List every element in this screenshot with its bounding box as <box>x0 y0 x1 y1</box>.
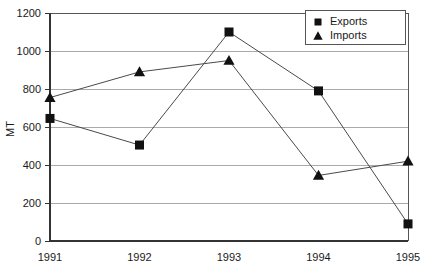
x-tick-label: 1992 <box>127 251 151 263</box>
y-axis-title: MT <box>4 121 16 137</box>
data-point-marker <box>46 114 55 123</box>
chart-canvas: 120010008006004002000 199119921993199419… <box>0 0 429 272</box>
x-tick-label: 1995 <box>396 251 420 263</box>
y-tick-label: 800 <box>23 83 41 95</box>
x-tick-label: 1991 <box>38 251 62 263</box>
y-tick-label: 1000 <box>17 45 41 57</box>
x-tick-label: 1993 <box>217 251 241 263</box>
data-point-marker <box>225 28 234 37</box>
data-point-marker <box>135 141 144 150</box>
chart-legend: ExportsImports <box>305 10 405 44</box>
y-tick-label: 1200 <box>17 7 41 19</box>
legend-label-exports: Exports <box>330 15 368 27</box>
y-tick-label: 600 <box>23 121 41 133</box>
y-tick-label: 400 <box>23 159 41 171</box>
y-tick-label: 200 <box>23 197 41 209</box>
square-marker-icon <box>315 19 322 26</box>
x-tick-label: 1994 <box>306 251 330 263</box>
legend-label-imports: Imports <box>330 29 367 41</box>
line-chart: 120010008006004002000 199119921993199419… <box>0 0 429 272</box>
data-point-marker <box>404 219 413 228</box>
data-point-marker <box>314 86 323 95</box>
y-tick-label: 0 <box>35 235 41 247</box>
